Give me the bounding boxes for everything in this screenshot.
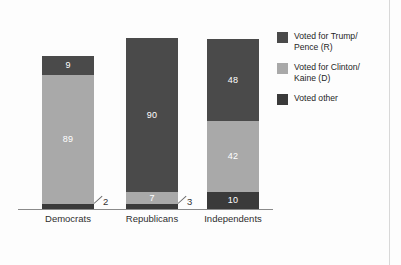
leader-line-republicans-other [178, 196, 187, 204]
bar-segment-trump-pence[interactable]: 9 [42, 56, 94, 75]
callout-republicans-other: 3 [187, 196, 192, 207]
segment-value-label: 9 [65, 61, 70, 70]
callout-democrats-other: 2 [103, 196, 108, 207]
segment-value-label: 10 [228, 196, 238, 205]
legend-swatch-icon [277, 63, 288, 74]
axis-label-democrats: Democrats [32, 213, 104, 224]
legend-label: Voted for Clinton/ Kaine (D) [294, 62, 360, 84]
bar-segment-other[interactable]: 10 [207, 192, 259, 209]
legend-swatch-icon [277, 94, 288, 105]
segment-value-label: 42 [228, 152, 238, 161]
bar-segment-trump-pence[interactable]: 90 [126, 38, 178, 192]
legend-label: Voted for Trump/ Pence (R) [294, 31, 358, 53]
bar-democrats[interactable]: 9 89 [42, 56, 94, 209]
bar-segment-clinton-kaine[interactable]: 89 [42, 75, 94, 204]
legend-item-clinton-kaine[interactable]: Voted for Clinton/ Kaine (D) [277, 62, 389, 84]
bar-segment-trump-pence[interactable]: 48 [207, 39, 259, 121]
legend: Voted for Trump/ Pence (R) Voted for Cli… [277, 31, 389, 114]
axis-label-republicans: Republicans [116, 213, 188, 224]
axis-label-independents: Independents [197, 213, 269, 224]
legend-item-trump-pence[interactable]: Voted for Trump/ Pence (R) [277, 31, 389, 53]
legend-label: Voted other [294, 93, 338, 104]
segment-value-label: 48 [228, 76, 238, 85]
baseline-axis [18, 209, 273, 210]
segment-value-label: 90 [147, 111, 157, 120]
bar-republicans[interactable]: 90 7 [126, 38, 178, 209]
bar-segment-clinton-kaine[interactable]: 42 [207, 121, 259, 192]
segment-value-label: 89 [63, 135, 73, 144]
leader-line-democrats-other [94, 196, 103, 204]
bar-independents[interactable]: 48 42 10 [207, 39, 259, 209]
legend-item-other[interactable]: Voted other [277, 93, 389, 105]
segment-value-label: 7 [149, 194, 154, 203]
chart-canvas: 9 89 2 Democrats 90 7 3 Republicans 48 [0, 0, 401, 265]
bar-segment-clinton-kaine[interactable]: 7 [126, 192, 178, 204]
legend-swatch-icon [277, 32, 288, 43]
